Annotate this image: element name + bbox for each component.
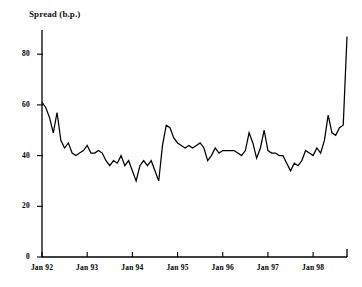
spread-line-chart: Spread (b.p.) 020406080 Jan 92Jan 93Jan …	[0, 0, 362, 287]
y-tick-label: 60	[8, 100, 30, 109]
y-tick-label: 0	[8, 252, 30, 261]
x-tick-label: Jan 98	[293, 263, 333, 272]
x-tick-label: Jan 96	[203, 263, 243, 272]
x-tick-label: Jan 93	[67, 263, 107, 272]
x-tick-label: Jan 94	[112, 263, 152, 272]
spread-series-line	[42, 36, 347, 181]
y-tick-label: 80	[8, 49, 30, 58]
x-tick-label: Jan 97	[248, 263, 288, 272]
x-tick-label: Jan 95	[158, 263, 198, 272]
x-tick-marks	[42, 252, 313, 257]
axis-lines	[42, 30, 347, 257]
x-tick-label: Jan 92	[22, 263, 62, 272]
plot-area	[0, 0, 362, 287]
y-tick-label: 40	[8, 151, 30, 160]
y-tick-label: 20	[8, 201, 30, 210]
